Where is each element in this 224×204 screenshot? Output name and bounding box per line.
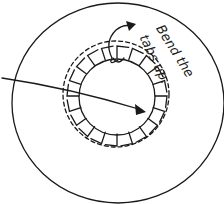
center-hole-circle — [79, 59, 155, 135]
bend-arrow-curve — [109, 26, 130, 63]
tab-outline — [117, 46, 129, 58]
tab-outline — [88, 50, 98, 65]
tab-outline — [77, 58, 87, 74]
tab-outline — [155, 96, 167, 108]
pointer-arrow-line — [2, 78, 142, 110]
tab-outline — [153, 108, 164, 122]
tab-outline — [79, 127, 95, 137]
tab-outline — [69, 70, 80, 84]
diagram-canvas: Bend the tabs up. — [0, 0, 224, 204]
tab-outline — [129, 48, 143, 59]
tab-outline — [105, 134, 117, 146]
bend-arrowhead-icon — [126, 21, 136, 31]
pointer-arrowhead-icon — [135, 104, 146, 115]
